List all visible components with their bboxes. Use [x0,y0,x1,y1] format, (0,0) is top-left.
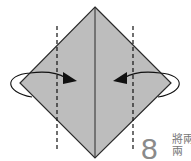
step-number: 8 [141,134,158,161]
instruction-text: 將兩 兩 [172,134,191,158]
origami-diagram [0,0,191,161]
